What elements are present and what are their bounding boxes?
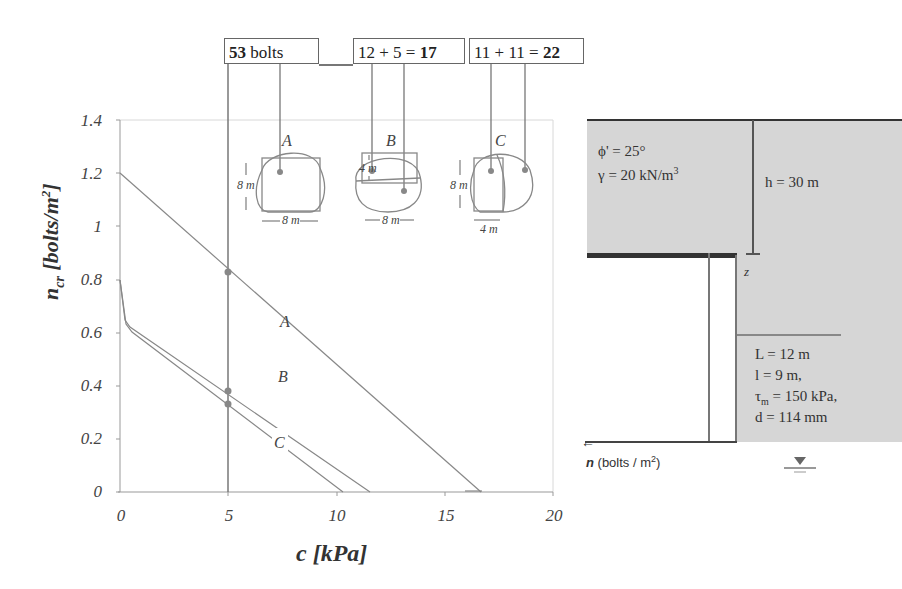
tunnel-roof <box>587 253 737 258</box>
tunnel-b-width: 8 m <box>382 213 400 228</box>
z-label: z <box>744 262 749 281</box>
marker-a <box>225 269 232 276</box>
marker-b <box>225 388 232 395</box>
soil-upper-region <box>587 120 902 255</box>
L-label: L = 12 m <box>755 345 810 364</box>
water-table-icon <box>782 455 818 479</box>
d-label: d = 114 mm <box>755 408 828 427</box>
bolt-length-line <box>737 334 841 336</box>
tunnel-wall-line <box>735 255 737 442</box>
n-axis-label: n (bolts / m2) <box>586 450 660 472</box>
tunnel-a-height: 8 m <box>237 178 255 193</box>
n-axis-line <box>585 441 737 443</box>
h-label: h = 30 m <box>765 173 819 192</box>
ground-surface-line <box>587 119 902 121</box>
phi-label: ϕ' = 25° <box>598 142 646 161</box>
tunnel-a-width: 8 m <box>282 213 300 228</box>
gamma-label: γ = 20 kN/m3 <box>598 161 679 185</box>
curve-c-label: C <box>274 434 285 452</box>
h-dimension-line <box>752 120 754 255</box>
chart-plot <box>0 0 580 589</box>
bolt-distribution-line <box>708 253 710 442</box>
n-axis-arrow: ← <box>581 435 595 451</box>
tunnel-c-width: 4 m <box>480 222 498 237</box>
curve-a-label: A <box>280 313 290 331</box>
l-label: l = 9 m, <box>755 366 802 385</box>
tunnel-c-height: 8 m <box>450 178 468 193</box>
marker-c <box>225 401 232 408</box>
curve-b-label: B <box>278 368 288 386</box>
curve-b <box>120 280 370 492</box>
tunnel-a-label: A <box>282 132 292 150</box>
curve-c <box>120 280 343 492</box>
tunnel-c-diagram <box>460 154 533 220</box>
tunnel-b-label: B <box>386 132 396 150</box>
h-dimension-tick <box>746 253 760 255</box>
tunnel-a-diagram <box>246 153 325 221</box>
tunnel-c-label: C <box>495 132 506 150</box>
tunnel-b-height: 4 m <box>359 161 377 176</box>
